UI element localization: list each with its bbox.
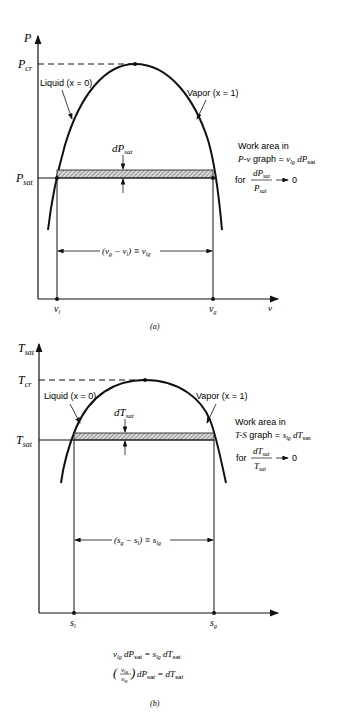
ts-vapor-pointer xyxy=(207,404,216,423)
eq2-close-paren: ) xyxy=(130,665,135,680)
clapeyron-diagram: P Pcr Psat dPsat Liquid (x = 0) Vapor (x… xyxy=(0,0,340,720)
ts-for-label: for xyxy=(236,453,247,463)
frac-num: dPsat xyxy=(253,168,270,179)
sl-label: sl xyxy=(70,617,76,629)
sg-label: sg xyxy=(210,617,217,629)
dp-label: dPsat xyxy=(112,142,133,156)
p-axis-label: P xyxy=(23,31,32,45)
vl-point xyxy=(55,297,59,301)
work-area-band xyxy=(57,170,213,178)
sl-point xyxy=(72,611,76,615)
caption-b: (b) xyxy=(150,699,160,708)
liquid-label: Liquid (x = 0) xyxy=(40,78,92,88)
psat-label: Psat xyxy=(15,171,33,187)
tcr-label: Tcr xyxy=(18,373,32,389)
liquid-pointer xyxy=(62,90,72,119)
caption-a: (a) xyxy=(150,322,160,331)
ts-work-band xyxy=(74,433,214,440)
span-label: (vg − vl) ≡ vlg xyxy=(102,246,151,257)
vg-label: vg xyxy=(209,303,216,315)
pv-graph: P Pcr Psat dPsat Liquid (x = 0) Vapor (x… xyxy=(15,31,316,331)
eq2-frac-den: slg xyxy=(121,675,128,683)
critical-point-ts xyxy=(143,378,147,382)
dt-label: dTsat xyxy=(114,406,135,420)
sg-point xyxy=(212,611,216,615)
ts-liquid-label: Liquid (x = 0) xyxy=(44,391,96,401)
tsat-label: Tsat xyxy=(16,433,33,449)
eq2-frac-num: vlg xyxy=(121,666,128,674)
t-axis-label: Tsat xyxy=(18,341,35,357)
equation-2-tail: dPsat = dTsat xyxy=(137,669,183,680)
pcr-label: Pcr xyxy=(17,57,33,73)
frac-den: Psat xyxy=(253,183,267,194)
work-note-line1: Work area in xyxy=(238,141,289,151)
ts-frac-num: dTsat xyxy=(253,446,270,457)
ts-liquid-pointer xyxy=(70,404,80,423)
eq2-open-paren: ( xyxy=(113,665,118,680)
vl-label: vl xyxy=(54,303,60,315)
vapor-label: Vapor (x = 1) xyxy=(187,88,239,98)
ts-work-note-line1: Work area in xyxy=(235,417,286,427)
ts-graph: Tsat Tcr Tsat dTsat Liquid (x = 0) Vapor… xyxy=(16,341,311,708)
ts-frac-den: Tsat xyxy=(254,461,266,472)
v-axis-label: v xyxy=(268,303,272,313)
ts-limit-value: 0 xyxy=(292,453,297,463)
ts-work-note-line2: T-S graph = slg dTsat xyxy=(235,430,311,441)
vg-point xyxy=(211,297,215,301)
for-label: for xyxy=(235,175,246,185)
critical-point xyxy=(133,62,137,66)
work-note-line2: P-v graph = vlg dPsat xyxy=(237,154,316,165)
ts-span-label: (sg − sl) ≡ slg xyxy=(114,535,161,546)
limit-value: 0 xyxy=(292,175,297,185)
vapor-pointer xyxy=(197,100,206,119)
ts-vapor-label: Vapor (x = 1) xyxy=(196,391,248,401)
equation-1: vlg dPsat = slg dTsat xyxy=(113,649,181,660)
